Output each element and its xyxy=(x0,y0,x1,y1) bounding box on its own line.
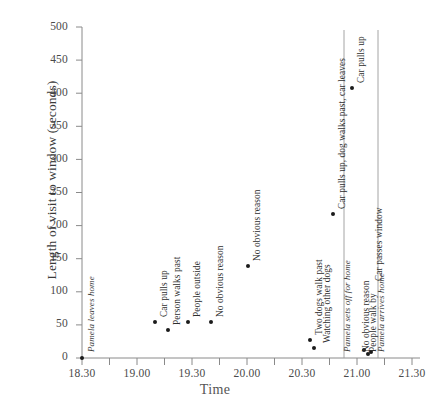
data-point xyxy=(350,86,354,90)
data-point xyxy=(308,338,312,342)
data-point xyxy=(331,212,335,216)
data-point xyxy=(80,356,84,360)
data-point xyxy=(153,320,157,324)
point-label-person-walks-past: Person walks past xyxy=(172,257,182,325)
data-point xyxy=(186,320,190,324)
point-label-people-outside: People outside xyxy=(192,261,202,317)
point-label-no-obvious-reason-1: No obvious reason xyxy=(215,246,225,317)
point-label-pamela-arrives-home: Pamela arrives home xyxy=(376,273,386,352)
data-point xyxy=(166,328,170,332)
x-axis-title: Time xyxy=(0,382,430,398)
point-label-pamela-leaves-home: Pamela leaves home xyxy=(86,276,96,352)
point-label-watching-other-dogs: Watching other dogs xyxy=(322,264,332,343)
point-label-pamela-sets-off-for-home: Pamela sets off for home xyxy=(342,260,352,352)
x-tick-label: 21.00 xyxy=(327,367,387,379)
x-tick-label: 20.00 xyxy=(217,367,277,379)
data-point xyxy=(209,320,213,324)
point-label-car-passes-window: Car passes window xyxy=(374,208,384,281)
plot-area: 500 450 400 350 300 250 200 150 100 50 0… xyxy=(0,0,430,411)
point-label-car-pulls-up-dog-walks-past-car-leaves: Car pulls up, dog walks past, car leaves xyxy=(337,58,347,209)
x-tick-label: 19.00 xyxy=(107,367,167,379)
y-tick-label: 500 xyxy=(22,20,68,32)
x-tick-label: 18.30 xyxy=(52,367,112,379)
data-point xyxy=(246,264,250,268)
point-label-no-obvious-reason-2: No obvious reason xyxy=(252,190,262,261)
x-tick-label: 20.30 xyxy=(272,367,332,379)
point-label-car-pulls-up-2: Car pulls up xyxy=(356,36,366,83)
data-point xyxy=(312,346,316,350)
scatter-chart: 500 450 400 350 300 250 200 150 100 50 0… xyxy=(0,0,430,411)
y-tick-label: 0 xyxy=(22,350,68,362)
y-axis-title: Length of visit to window (seconds) xyxy=(44,40,60,320)
x-tick-label: 19.30 xyxy=(162,367,222,379)
x-tick-label: 21.30 xyxy=(382,367,430,379)
point-label-car-pulls-up-1: Car pulls up xyxy=(159,270,169,317)
